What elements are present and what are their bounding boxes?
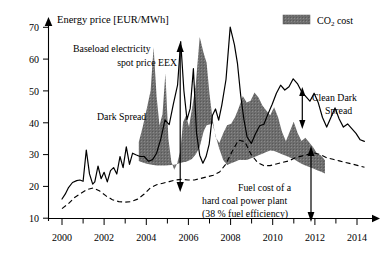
annotation-clean-dark-spread-line2: Spread bbox=[325, 105, 352, 116]
annotation-fuel-cost-line3: (38 % fuel efficiency) bbox=[202, 208, 288, 220]
x-tick-label-2004: 2004 bbox=[136, 232, 156, 243]
x-tick-label-2002: 2002 bbox=[94, 232, 114, 243]
annotation-dark-spread: Dark Spread bbox=[97, 111, 146, 122]
x-tick-label-2014: 2014 bbox=[347, 232, 367, 243]
x-tick-label-2012: 2012 bbox=[305, 232, 325, 243]
y-tick-label-10: 10 bbox=[29, 213, 39, 224]
legend: CO2 cost bbox=[283, 15, 353, 29]
x-tick-label-2006: 2006 bbox=[178, 232, 198, 243]
x-tick-label-2008: 2008 bbox=[221, 232, 241, 243]
legend-label-co2-cost: CO2 cost bbox=[317, 15, 353, 29]
y-axis-title: Energy price [EUR/MWh] bbox=[57, 14, 169, 25]
annotation-clean-dark-spread-line1: Clean Dark bbox=[312, 92, 357, 103]
annotation-fuel-cost-line1: Fuel cost of a bbox=[238, 182, 292, 193]
x-tick-label-2000: 2000 bbox=[52, 232, 72, 243]
y-tick-label-30: 30 bbox=[29, 149, 39, 160]
clean-dark-spread-arrow bbox=[299, 87, 305, 129]
x-tick-label-2010: 2010 bbox=[263, 232, 283, 243]
x-axis-ticks bbox=[62, 219, 357, 226]
energy-price-chart: 70 60 50 40 30 20 10 2000 2002 2004 bbox=[0, 0, 386, 269]
y-axis-ticks bbox=[43, 27, 48, 218]
y-tick-label-70: 70 bbox=[29, 22, 39, 33]
y-tick-label-50: 50 bbox=[29, 86, 39, 97]
y-tick-label-40: 40 bbox=[29, 118, 39, 129]
y-tick-label-20: 20 bbox=[29, 181, 39, 192]
legend-swatch-co2-cost bbox=[283, 15, 310, 24]
chart-figure: 70 60 50 40 30 20 10 2000 2002 2004 bbox=[0, 0, 386, 269]
annotation-spot-price-line1: Baseload electricity bbox=[73, 43, 151, 54]
y-tick-label-60: 60 bbox=[29, 54, 39, 65]
annotation-spot-price-line2: spot price EEX bbox=[117, 57, 177, 68]
annotation-fuel-cost-line2: hard coal power plant bbox=[202, 195, 287, 206]
